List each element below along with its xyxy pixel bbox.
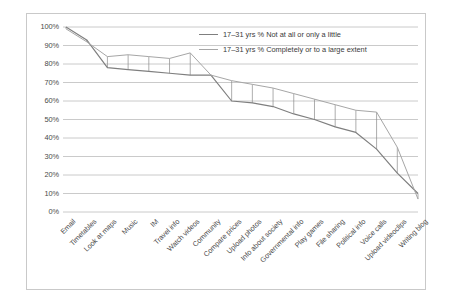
legend-entry: 17–31 yrs % Completely or to a large ext… (199, 45, 367, 54)
y-axis-tick-label: 30% (27, 152, 59, 161)
y-axis-tick-label: 10% (27, 189, 59, 198)
y-axis-tick-label: 70% (27, 78, 59, 87)
y-axis-tick-label: 90% (27, 41, 59, 50)
y-axis-tick-label: 50% (27, 115, 59, 124)
y-axis-tick-label: 100% (27, 22, 59, 31)
y-axis-tick-label: 0% (27, 207, 59, 216)
y-axis-tick-label: 60% (27, 96, 59, 105)
series-line-1 (66, 29, 418, 199)
y-axis-tick-label: 40% (27, 133, 59, 142)
legend-label: 17–31 yrs % Completely or to a large ext… (223, 45, 367, 54)
chart-figure: 100%90%80%70%60%50%40%30%20%10%0% EmailT… (26, 13, 426, 290)
legend-swatch (199, 49, 218, 50)
legend-swatch (199, 34, 218, 35)
legend-label: 17–31 yrs % Not at all or only a little (223, 30, 341, 39)
legend-entry: 17–31 yrs % Not at all or only a little (199, 30, 341, 39)
y-axis-tick-label: 20% (27, 170, 59, 179)
y-axis-tick-label: 80% (27, 59, 59, 68)
